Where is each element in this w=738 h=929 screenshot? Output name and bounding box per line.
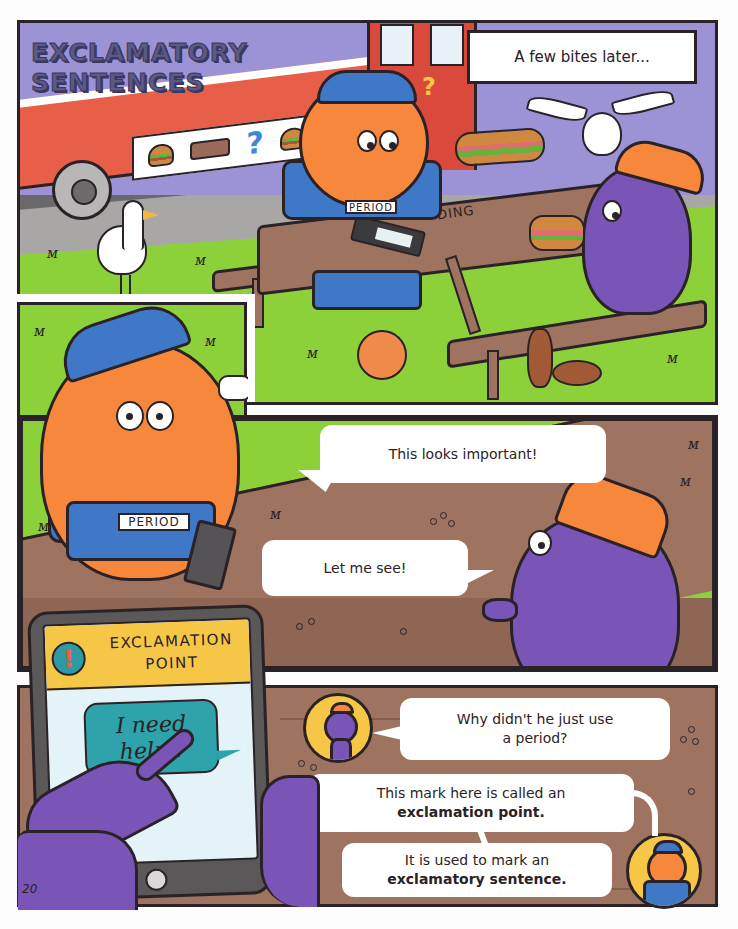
- comic-page: ? ? EXCLAMATORY SENTENCES A few bites la…: [0, 0, 738, 929]
- home-button: [145, 868, 168, 891]
- crumb: [688, 788, 695, 795]
- gutter: [17, 294, 255, 302]
- eye: [146, 401, 174, 431]
- speech-bubble-purple: Let me see!: [262, 540, 468, 596]
- speech-bubble-explanation-2: It is used to mark an exclamatory senten…: [342, 843, 612, 897]
- speech-bubble-explanation-1: This mark here is called an exclamation …: [308, 774, 634, 832]
- blue-cap: [653, 840, 683, 854]
- crumb: [310, 764, 317, 771]
- message-tail: [217, 750, 241, 761]
- tablet-title: EXCLAMATION POINT: [91, 627, 252, 677]
- crumb: [680, 736, 687, 743]
- speech-text: This looks important!: [389, 445, 538, 464]
- crumb: [692, 738, 699, 745]
- speech-text: a period?: [502, 729, 567, 748]
- blue-overalls: [643, 880, 691, 909]
- page-number: 20: [22, 882, 37, 896]
- gutter: [247, 294, 255, 402]
- speech-bubble-question: Why didn't he just use a period?: [400, 698, 670, 760]
- purple-hand-holding: [260, 775, 320, 907]
- crumb: [688, 726, 695, 733]
- speech-text-bold: exclamation point.: [397, 803, 544, 822]
- purple-body: [330, 738, 352, 763]
- orange-cap: [330, 702, 354, 714]
- speech-text-bold: exclamatory sentence.: [387, 870, 566, 889]
- speech-tail: [372, 726, 402, 740]
- tablet-header: ! EXCLAMATION POINT: [45, 619, 251, 690]
- crumb: [298, 760, 305, 767]
- speech-bubble-period: This looks important!: [320, 425, 606, 483]
- speech-text: Let me see!: [324, 559, 407, 578]
- avatar-purple-character: [303, 693, 373, 763]
- period-nametag: PERIOD: [118, 513, 190, 531]
- speech-text: This mark here is called an: [377, 784, 566, 803]
- eye: [116, 401, 144, 431]
- white-glove: [218, 375, 248, 401]
- purple-arm: [18, 830, 138, 910]
- speech-text: It is used to mark an: [405, 851, 549, 870]
- speech-text: Why didn't he just use: [457, 710, 614, 729]
- avatar-period-character: [626, 833, 702, 909]
- exclamation-icon: !: [51, 641, 86, 676]
- speech-tail: [462, 570, 494, 586]
